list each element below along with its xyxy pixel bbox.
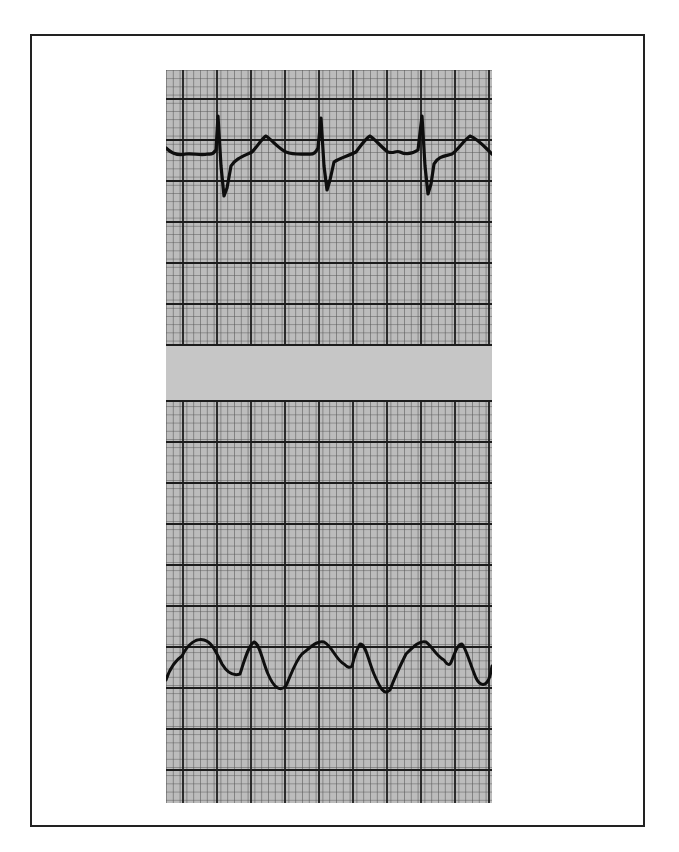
- ecg-strip: [166, 70, 492, 803]
- separator-band: [166, 345, 492, 401]
